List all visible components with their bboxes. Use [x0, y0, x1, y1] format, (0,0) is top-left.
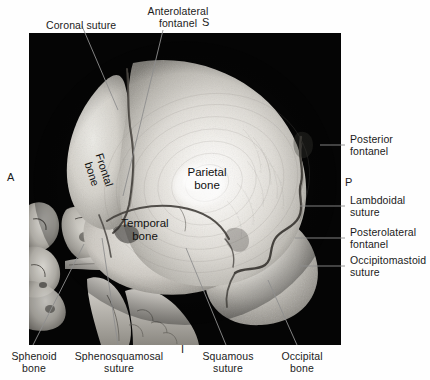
label-lambdoidal-suture-line2: suture	[350, 206, 405, 218]
label-posterolateral-fontanel: Posterolateral fontanel	[350, 226, 416, 250]
label-lambdoidal-suture: Lambdoidal suture	[350, 194, 405, 218]
label-sphenosquamosal-suture-line1: Sphenosquamosal	[69, 350, 169, 362]
label-anterolateral-fontanel: Anterolateral fontanel	[136, 5, 220, 29]
label-squamous-suture-line1: Squamous	[198, 350, 258, 362]
label-parietal-bone-line1: Parietal	[188, 166, 227, 178]
label-occipitomastoid-suture: Occipitomastoid suture	[350, 254, 426, 278]
label-squamous-suture: Squamous suture	[198, 350, 258, 374]
label-anterolateral-fontanel-line1: Anterolateral	[136, 5, 220, 17]
label-coronal-suture-line1: Coronal suture	[46, 19, 116, 31]
anatomy-figure: Parietal bone Temporal bone Frontal bone	[0, 0, 430, 380]
label-sphenosquamosal-suture: Sphenosquamosal suture	[69, 350, 169, 374]
label-posterolateral-fontanel-line2: fontanel	[350, 238, 416, 250]
orientation-marker-anterior: A	[7, 172, 14, 183]
label-lambdoidal-suture-line1: Lambdoidal	[350, 194, 405, 206]
label-sphenoid-bone-line1: Sphenoid	[3, 350, 65, 362]
label-sphenosquamosal-suture-line2: suture	[69, 362, 169, 374]
skull-render: Parietal bone Temporal bone Frontal bone	[29, 33, 341, 345]
label-occipital-bone-line2: bone	[272, 362, 332, 374]
ct-scan-panel: Parietal bone Temporal bone Frontal bone	[29, 33, 341, 345]
label-posterolateral-fontanel-line1: Posterolateral	[350, 226, 416, 238]
label-anterolateral-fontanel-line2: fontanel	[136, 17, 220, 29]
label-squamous-suture-line2: suture	[198, 362, 258, 374]
orientation-marker-inferior: I	[181, 344, 184, 355]
label-temporal-bone-line2: bone	[132, 230, 158, 242]
label-occipitomastoid-suture-line1: Occipitomastoid	[350, 254, 426, 266]
orientation-marker-posterior: P	[345, 177, 352, 188]
label-temporal-bone-line1: Temporal	[121, 217, 168, 229]
label-coronal-suture: Coronal suture	[46, 19, 116, 31]
label-sphenoid-bone-line2: bone	[3, 362, 65, 374]
label-occipitomastoid-suture-line2: suture	[350, 266, 426, 278]
label-posterior-fontanel-line1: Posterior	[350, 133, 393, 145]
label-sphenoid-bone: Sphenoid bone	[3, 350, 65, 374]
label-occipital-bone: Occipital bone	[272, 350, 332, 374]
label-occipital-bone-line1: Occipital	[272, 350, 332, 362]
label-posterior-fontanel: Posterior fontanel	[350, 133, 393, 157]
label-posterior-fontanel-line2: fontanel	[350, 145, 393, 157]
label-parietal-bone-line2: bone	[194, 179, 220, 191]
